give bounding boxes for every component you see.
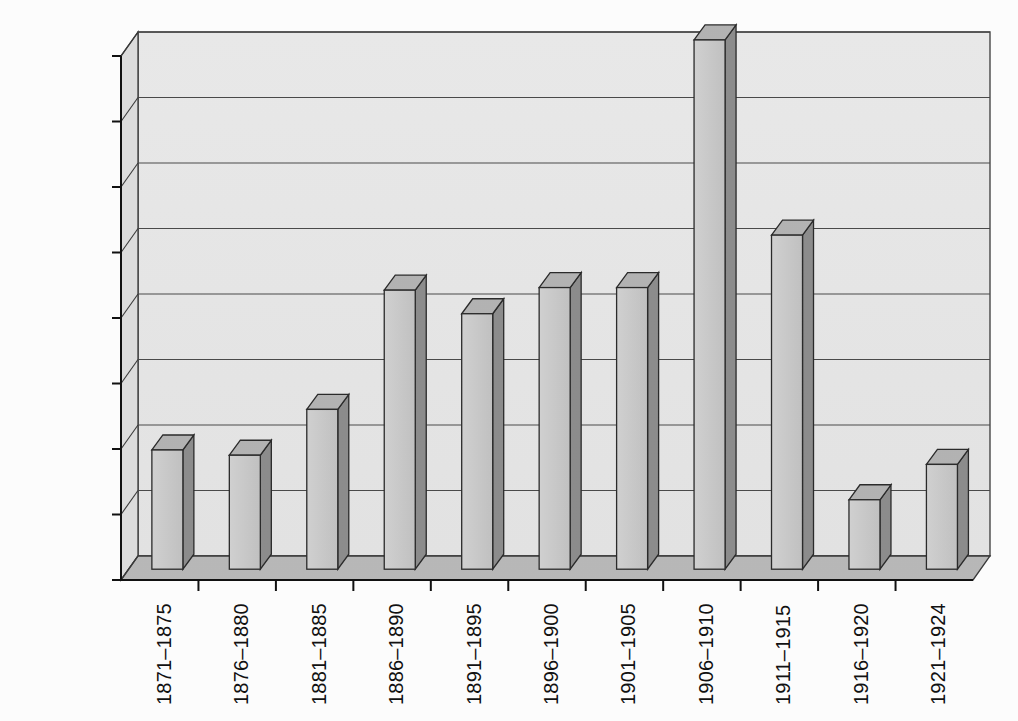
x-axis-tick-label: 1916–1920 xyxy=(850,603,873,705)
x-axis-tick-label: 1876–1880 xyxy=(230,603,253,705)
x-axis-tick-label: 1891–1895 xyxy=(463,603,486,705)
chart-container: 050,000100,000150,000200,000250,000300,0… xyxy=(0,0,1018,721)
x-axis-tick-label: 1871–1875 xyxy=(153,603,176,705)
x-axis-tick-label: 1881–1885 xyxy=(308,603,331,705)
x-axis-tick-label: 1911–1915 xyxy=(772,605,795,705)
x-axis-tick-label: 1901–1905 xyxy=(617,603,640,705)
x-axis-tick-label: 1886–1890 xyxy=(385,603,408,705)
x-axis-label-group: 1871–18751876–18801881–18851886–18901891… xyxy=(0,0,1018,721)
x-axis-tick-label: 1921–1924 xyxy=(927,603,950,705)
x-axis-tick-label: 1906–1910 xyxy=(695,603,718,705)
x-axis-tick-label: 1896–1900 xyxy=(540,603,563,705)
